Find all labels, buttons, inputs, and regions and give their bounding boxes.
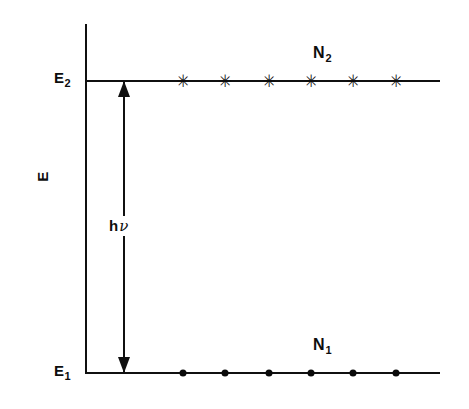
energy-level-label-e2-subscript: 2	[65, 77, 71, 89]
transition-arrow-head-down-icon	[118, 357, 130, 373]
energy-level-label-e2-base: E	[54, 69, 64, 86]
energy-axis-line	[85, 24, 87, 374]
energy-level-label-e1: E1	[54, 362, 71, 382]
particle-marker-upper-5: ✳	[346, 73, 360, 90]
particle-marker-upper-3: ✳	[262, 73, 276, 90]
population-label-n2: N2	[313, 44, 332, 64]
energy-level-label-e1-subscript: 1	[65, 370, 71, 382]
particle-marker-upper-4: ✳	[304, 73, 318, 90]
particle-marker-lower-1	[180, 370, 187, 377]
population-label-n1-subscript: 1	[326, 344, 332, 356]
particle-marker-lower-5	[350, 370, 357, 377]
population-label-n2-subscript: 2	[326, 52, 332, 64]
particle-marker-upper-1: ✳	[176, 73, 190, 90]
energy-level-label-e2: E2	[54, 69, 71, 89]
population-label-n1-base: N	[313, 336, 325, 353]
particle-marker-lower-4	[308, 370, 315, 377]
population-label-n2-base: N	[313, 44, 325, 61]
energy-level-label-e1-base: E	[54, 362, 64, 379]
energy-level-line-lower	[86, 372, 440, 374]
energy-level-diagram: E E2 N2 E1 N1 ✳✳✳✳✳✳ hν	[0, 0, 469, 409]
particle-marker-lower-6	[393, 370, 400, 377]
transition-energy-label: hν	[107, 216, 130, 236]
particle-marker-lower-3	[266, 370, 273, 377]
particle-marker-upper-6: ✳	[389, 73, 403, 90]
energy-axis-label: E	[34, 163, 51, 191]
transition-energy-label-nu: ν	[119, 217, 128, 235]
particle-marker-lower-2	[222, 370, 229, 377]
transition-arrow-head-up-icon	[118, 81, 130, 97]
population-label-n1: N1	[313, 336, 332, 356]
transition-energy-label-h: h	[109, 217, 118, 234]
particle-marker-upper-2: ✳	[218, 73, 232, 90]
